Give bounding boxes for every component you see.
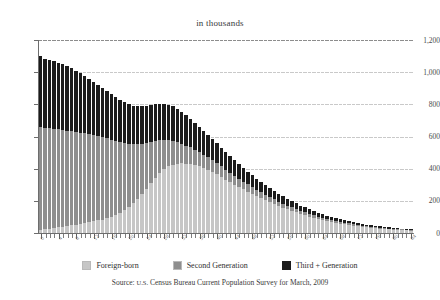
bar-segment xyxy=(365,227,368,233)
bar-segment xyxy=(74,132,77,225)
legend-label: Second Generation xyxy=(187,261,248,270)
x-axis-label: 56 xyxy=(286,233,294,241)
bar-segment xyxy=(132,106,135,144)
bar-segment xyxy=(347,225,350,233)
bar-segment xyxy=(273,204,276,233)
bar-segment xyxy=(43,59,46,128)
bar-segment xyxy=(189,147,192,164)
bar-segment xyxy=(215,143,218,163)
x-axis-label: 16 xyxy=(110,233,118,241)
legend-label: Third + Generation xyxy=(296,261,358,270)
bar-segment xyxy=(123,102,126,143)
bar-segment xyxy=(74,225,77,233)
x-axis-labels: 0481216202428323640444852566064687276808… xyxy=(0,237,440,253)
bar-segment xyxy=(220,148,223,167)
bar-segment xyxy=(255,179,258,190)
bar-segment xyxy=(224,170,227,180)
bar-segment xyxy=(52,61,55,129)
bar-segment xyxy=(281,208,284,233)
bar-segment xyxy=(162,169,165,233)
bar-segment xyxy=(237,179,240,187)
source-text: Census Bureau Current Population Survey … xyxy=(148,278,328,287)
bar-segment xyxy=(264,185,267,195)
bar-column[interactable] xyxy=(409,40,413,233)
bar-segment xyxy=(387,229,390,233)
bar-segment xyxy=(140,194,143,233)
bar-segment xyxy=(127,207,130,233)
bar-segment xyxy=(83,223,86,233)
bar-segment xyxy=(211,172,214,233)
bar-segment xyxy=(167,166,170,233)
bar-segment xyxy=(220,166,223,177)
bar-segment xyxy=(83,133,86,223)
bar-segment xyxy=(206,135,209,158)
bar-segment xyxy=(101,88,104,137)
bar-segment xyxy=(92,135,95,221)
bar-segment xyxy=(114,215,117,233)
bar-segment xyxy=(127,104,130,143)
bar-segment xyxy=(145,143,148,189)
bar-segment xyxy=(57,129,60,227)
x-axis-label: 24 xyxy=(145,233,153,241)
legend-item-foreign-born[interactable]: Foreign-born xyxy=(82,261,138,270)
bar-segment xyxy=(383,229,386,233)
bar-segment xyxy=(251,187,254,194)
bar-segment xyxy=(154,178,157,233)
bar-segment xyxy=(92,82,95,135)
bar-segment xyxy=(242,189,245,233)
bar-segment xyxy=(87,134,90,222)
bar-segment xyxy=(118,142,121,213)
bar-segment xyxy=(43,128,46,230)
bar-segment xyxy=(246,172,249,185)
chart-page: in thousands 02004006008001,0001,200 048… xyxy=(0,0,440,300)
bar-segment xyxy=(171,141,174,165)
bar-segment xyxy=(176,109,179,142)
bar-segment xyxy=(154,141,157,178)
bar-segment xyxy=(193,165,196,233)
bar-segment xyxy=(206,170,209,233)
bar-segment xyxy=(312,218,315,233)
bar-segment xyxy=(83,76,86,133)
bar-segment xyxy=(65,226,68,233)
bar-segment xyxy=(352,226,355,233)
bar-segment xyxy=(39,127,42,230)
bar-segment xyxy=(149,183,152,233)
bar-segment xyxy=(242,168,245,182)
bar-segment xyxy=(140,144,143,194)
bar-series-group xyxy=(39,40,413,233)
legend-label: Foreign-born xyxy=(96,261,138,270)
bar-segment xyxy=(110,140,113,217)
bar-segment xyxy=(193,123,196,150)
bar-segment xyxy=(79,73,82,133)
bar-segment xyxy=(96,220,99,233)
bar-segment xyxy=(233,160,236,176)
bar-segment xyxy=(268,188,271,197)
legend-item-third-plus-generation[interactable]: Third + Generation xyxy=(282,261,358,270)
bar-segment xyxy=(167,105,170,140)
bar-segment xyxy=(114,97,117,141)
x-axis-label: 44 xyxy=(233,233,241,241)
bar-segment xyxy=(202,131,205,155)
bar-segment xyxy=(264,200,267,233)
legend-item-second-generation[interactable]: Second Generation xyxy=(173,261,248,270)
bar-segment xyxy=(39,56,42,127)
bar-segment xyxy=(158,173,161,233)
bar-segment xyxy=(52,228,55,233)
bar-segment xyxy=(211,160,214,172)
bar-segment xyxy=(224,180,227,233)
bar-segment xyxy=(57,227,60,233)
bar-segment xyxy=(118,213,121,233)
bar-segment xyxy=(176,142,179,164)
bar-segment xyxy=(176,164,179,233)
bar-segment xyxy=(149,142,152,183)
bar-segment xyxy=(277,194,280,202)
bar-segment xyxy=(215,174,218,233)
bar-segment xyxy=(154,104,157,140)
bar-segment xyxy=(158,104,161,140)
bar-segment xyxy=(127,144,130,208)
bar-segment xyxy=(228,182,231,233)
bar-segment xyxy=(184,146,187,164)
bar-segment xyxy=(105,218,108,233)
bar-segment xyxy=(180,144,183,164)
bar-segment xyxy=(171,165,174,234)
